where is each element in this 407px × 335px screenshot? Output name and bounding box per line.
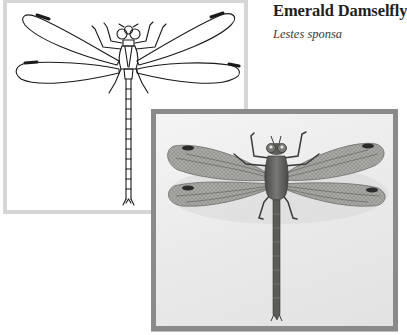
damselfly-photograph-icon [156,114,393,326]
species-scientific-name: Lestes sponsa [273,27,342,42]
photograph-frame [151,109,398,331]
species-common-name: Emerald Damselfly [273,1,407,21]
